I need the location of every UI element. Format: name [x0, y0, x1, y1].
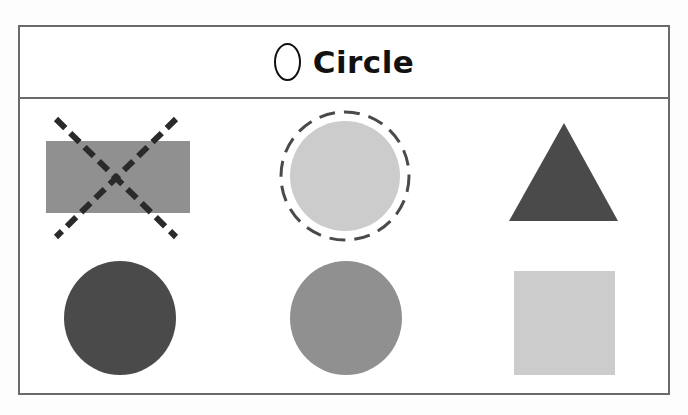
circle-outline-icon [274, 43, 301, 81]
shape-circle-selected[interactable] [281, 112, 409, 240]
shape-circle-dark[interactable] [64, 261, 176, 375]
shapes-grid [20, 99, 668, 393]
shape-selection-panel: Circle [18, 25, 670, 395]
shape-square[interactable] [514, 271, 615, 375]
shape-triangle[interactable] [509, 123, 618, 221]
header-title: Circle [313, 44, 415, 80]
panel-header: Circle [20, 27, 668, 99]
shape-rectangle-crossed[interactable] [46, 119, 190, 237]
shape-circle-medium[interactable] [290, 261, 402, 375]
